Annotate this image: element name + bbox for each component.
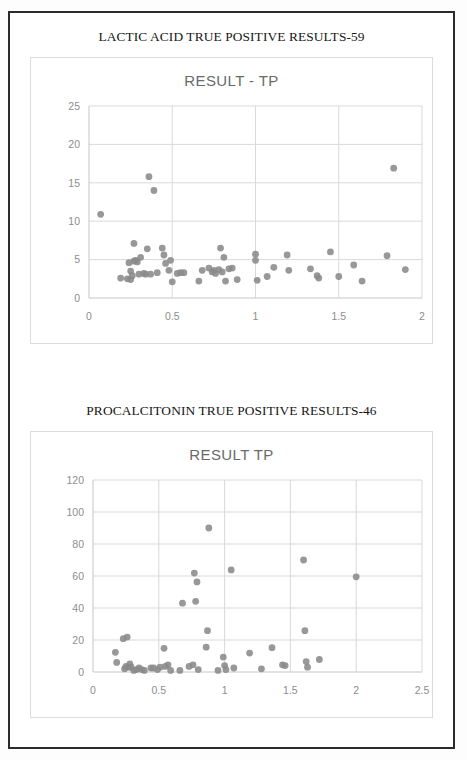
scatter-point	[147, 271, 154, 278]
y-axis-tick-label: 15	[68, 177, 80, 189]
x-axis-tick-label: 2	[353, 684, 359, 696]
scatter-point	[194, 579, 201, 586]
scatter-point	[195, 666, 202, 673]
scatter-point	[181, 269, 188, 276]
y-axis-tick-label: 0	[78, 666, 84, 678]
scatter-point	[146, 173, 153, 180]
scatter-point	[215, 667, 222, 674]
scatter-plot-lactic-acid: 051015202500.511.52	[31, 58, 434, 345]
scatter-point	[384, 252, 391, 259]
figure-lactic-acid: LACTIC ACID TRUE POSITIVE RESULTS-59 RES…	[10, 29, 453, 344]
scatter-point	[203, 644, 210, 651]
scatter-point	[151, 187, 158, 194]
scatter-point	[191, 570, 198, 577]
x-axis-tick-label: 1.5	[331, 310, 346, 322]
scatter-point	[327, 249, 334, 256]
scatter-point	[350, 262, 357, 269]
scatter-point	[300, 557, 307, 564]
y-axis-tick-label: 10	[68, 215, 80, 227]
scatter-point	[167, 257, 174, 264]
scatter-point	[264, 273, 271, 280]
page-outer-border: LACTIC ACID TRUE POSITIVE RESULTS-59 RES…	[8, 11, 455, 749]
x-axis-tick-label: 0.5	[151, 684, 166, 696]
scatter-point	[161, 645, 168, 652]
scatter-point	[252, 251, 259, 258]
y-axis-tick-label: 0	[74, 292, 80, 304]
x-axis-tick-label: 2.5	[415, 684, 430, 696]
scatter-point	[252, 257, 259, 264]
scatter-point	[359, 278, 366, 285]
scatter-point	[154, 269, 161, 276]
scatter-point	[129, 272, 136, 279]
y-axis-tick-label: 5	[74, 253, 80, 265]
chart-panel-procalcitonin: RESULT TP 02040608010012000.511.522.5	[30, 431, 433, 718]
scatter-point	[124, 634, 131, 641]
scatter-point	[117, 275, 124, 282]
y-axis-tick-label: 80	[72, 538, 84, 550]
scatter-point	[217, 245, 224, 252]
scatter-point	[204, 627, 211, 634]
scatter-point	[390, 165, 397, 172]
scatter-point	[112, 649, 119, 656]
x-axis-tick-label: 0.5	[165, 310, 180, 322]
scatter-point	[159, 245, 166, 252]
scatter-point	[270, 264, 277, 271]
scatter-point	[167, 667, 174, 674]
lactic-acid-caption: LACTIC ACID TRUE POSITIVE RESULTS-59	[10, 29, 453, 45]
scatter-point	[353, 573, 360, 580]
scatter-point	[161, 252, 168, 259]
y-axis-tick-label: 100	[66, 506, 84, 518]
scatter-point	[229, 265, 236, 272]
scatter-point	[269, 644, 276, 651]
procalcitonin-caption: PROCALCITONIN TRUE POSITIVE RESULTS-46	[10, 403, 453, 419]
y-axis-tick-label: 20	[72, 634, 84, 646]
scatter-point	[205, 525, 212, 532]
scatter-point	[144, 246, 151, 253]
scatter-point	[141, 667, 148, 674]
x-axis-tick-label: 2	[419, 310, 425, 322]
scatter-point	[335, 273, 342, 280]
scatter-point	[285, 267, 292, 274]
scatter-point	[220, 654, 227, 661]
scatter-point	[195, 278, 202, 285]
scatter-point	[301, 627, 308, 634]
scatter-point	[284, 252, 291, 259]
scatter-point	[230, 665, 237, 672]
x-axis-tick-label: 1	[222, 684, 228, 696]
scatter-point	[192, 598, 199, 605]
x-axis-tick-label: 0	[86, 310, 92, 322]
scatter-point	[254, 277, 261, 284]
scatter-point	[179, 600, 186, 607]
scatter-point	[220, 254, 227, 261]
scatter-point	[258, 665, 265, 672]
scatter-point	[402, 266, 409, 273]
y-axis-tick-label: 60	[72, 570, 84, 582]
scatter-point	[219, 269, 226, 276]
scatter-point	[282, 662, 289, 669]
y-axis-tick-label: 20	[68, 138, 80, 150]
scatter-point	[315, 275, 322, 282]
figure-procalcitonin: PROCALCITONIN TRUE POSITIVE RESULTS-46 R…	[10, 403, 453, 718]
scatter-point	[222, 278, 229, 285]
scatter-point	[190, 661, 197, 668]
y-axis-tick-label: 25	[68, 100, 80, 112]
x-axis-tick-label: 1	[253, 310, 259, 322]
x-axis-tick-label: 0	[90, 684, 96, 696]
scatter-point	[316, 656, 323, 663]
page-root: LACTIC ACID TRUE POSITIVE RESULTS-59 RES…	[0, 0, 467, 760]
scatter-point	[304, 664, 311, 671]
scatter-point	[113, 659, 120, 666]
scatter-point	[307, 265, 314, 272]
scatter-point	[131, 240, 138, 247]
scatter-point	[199, 267, 206, 274]
scatter-point	[223, 666, 230, 673]
scatter-point	[97, 211, 104, 218]
y-axis-tick-label: 40	[72, 602, 84, 614]
chart-panel-lactic-acid: RESULT - TP 051015202500.511.52	[30, 57, 433, 344]
scatter-point	[234, 276, 241, 283]
scatter-point	[166, 267, 173, 274]
scatter-point	[246, 650, 253, 657]
y-axis-tick-label: 120	[66, 474, 84, 486]
scatter-point	[176, 667, 183, 674]
scatter-plot-procalcitonin: 02040608010012000.511.522.5	[31, 432, 434, 719]
